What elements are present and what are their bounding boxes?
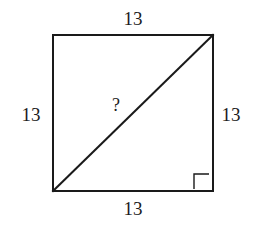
- side-label-right: 13: [211, 105, 251, 124]
- geometry-figure: 13 13 13 13 ?: [0, 0, 261, 227]
- right-angle-marker-icon: [194, 174, 209, 189]
- diagonal-unknown-label: ?: [109, 96, 123, 114]
- side-label-bottom: 13: [113, 199, 153, 218]
- diagonal-line: [53, 35, 213, 191]
- side-label-left: 13: [11, 105, 51, 124]
- side-label-top: 13: [113, 9, 153, 28]
